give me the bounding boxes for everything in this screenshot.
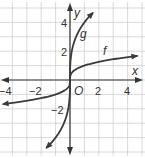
y-tick-minus-2: −2 [51,104,64,116]
x-axis-arrow-left [1,77,9,83]
y-tick-4: 4 [61,17,67,29]
curve-g-label: g [80,27,87,41]
x-axis-label: x [131,64,139,78]
y-axis-arrow-down [67,147,73,155]
x-tick-4: 4 [124,85,130,97]
y-axis-arrow-up [67,3,73,11]
origin-label: O [74,84,83,98]
x-tick-minus-4: −4 [0,85,12,97]
x-tick-minus-2: −2 [29,85,42,97]
x-tick-2: 2 [95,85,101,97]
y-axis-label: y [73,6,81,20]
function-graph: −4 −2 2 4 4 2 −2 O x y f g [0,0,145,158]
y-tick-2: 2 [61,46,67,58]
curve-f-arrow-left [2,100,9,106]
grid [0,2,145,156]
